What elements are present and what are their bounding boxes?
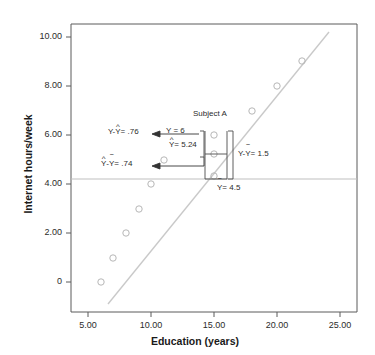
x-axis-title: Education (years) [95,335,295,347]
data-point [136,206,142,212]
y-hat-glyph: ^Y [169,141,174,149]
data-point [148,181,154,187]
regression-deviation-label: ^Y-‾Y= .74 [101,160,132,168]
data-point [161,157,167,163]
subject-a-markers [211,151,217,179]
x-tick-label: 15.00 [191,320,237,330]
data-point [123,230,129,236]
x-tick-label: 20.00 [254,320,300,330]
data-point [110,255,116,261]
y-tick-label: 0 [18,276,62,286]
x-tick-label: 25.00 [317,320,363,330]
x-tick-label: 5.00 [65,320,111,330]
y-bar-glyph: ‾Y [245,150,250,158]
subject-a-label: Subject A [193,110,227,118]
left-bracket [200,131,204,157]
predicted-value-label: ^Y= 5.24 [169,141,197,149]
data-point [299,58,305,64]
mean-value-label: ‾Y= 4.5 [217,184,240,192]
y-hat-glyph: ^Y [101,160,106,168]
data-points [98,58,305,285]
data-point [98,279,104,285]
y-bar-glyph: ‾Y [109,160,114,168]
data-point [274,83,280,89]
y-bar-glyph: ‾Y [217,184,222,192]
x-tick-label: 10.00 [128,320,174,330]
regression-deviation-arrow [152,157,204,169]
x-axis-ticks [88,312,340,317]
data-point-subject-a [211,132,217,138]
scatter-plot-figure: 10.00 8.00 6.00 4.00 2.00 0 5.00 10.00 1… [0,0,375,355]
y-hat-glyph: ^Y [115,128,120,136]
observed-value-label: Y = 6 [166,127,185,135]
residual-label: Y-^Y= .76 [108,128,139,136]
y-tick-label: 10.00 [18,31,62,41]
regression-line [108,32,329,304]
data-point [249,108,255,114]
y-axis-title: Internet hours/week [22,84,34,244]
y-axis-ticks [66,37,71,282]
total-deviation-label: Y-‾Y= 1.5 [238,150,269,158]
